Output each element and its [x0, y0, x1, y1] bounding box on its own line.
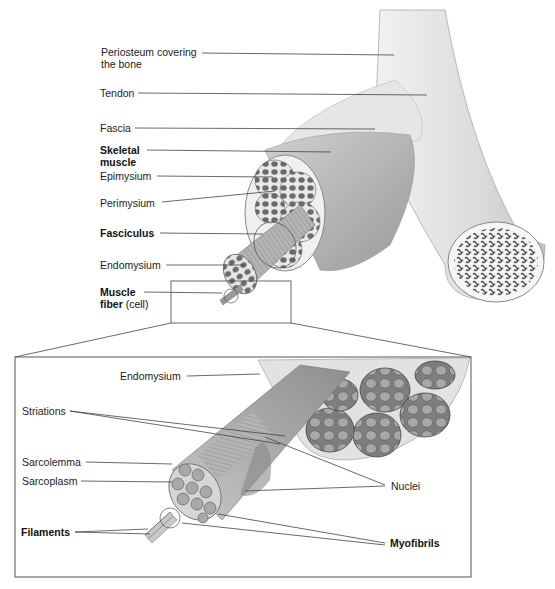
label-periosteum: Periosteum covering the bone	[101, 46, 197, 70]
label-skeletal-line1: Skeletal	[100, 144, 140, 156]
label-fasciculus: Fasciculus	[100, 227, 154, 239]
label-fascia: Fascia	[100, 122, 131, 134]
label-skeletal-muscle: Skeletal muscle	[100, 144, 140, 168]
label-endomysium-upper: Endomysium	[100, 259, 161, 271]
label-periosteum-line1: Periosteum covering	[101, 46, 197, 58]
muscle-anatomy-illustration	[0, 0, 555, 589]
label-cell-word: (cell)	[123, 298, 149, 310]
label-filaments: Filaments	[21, 526, 70, 538]
label-muscle-fiber-line2: fiber (cell)	[100, 298, 148, 310]
inset-illustration	[145, 358, 470, 543]
label-skeletal-line2: muscle	[100, 156, 140, 168]
label-perimysium: Perimysium	[100, 197, 155, 209]
label-nuclei: Nuclei	[391, 480, 420, 492]
label-endomysium-inset: Endomysium	[120, 370, 181, 382]
label-myofibrils: Myofibrils	[390, 537, 440, 549]
label-tendon: Tendon	[100, 87, 134, 99]
label-muscle-fiber: Muscle fiber (cell)	[100, 286, 148, 310]
label-fiber-word: fiber	[100, 298, 123, 310]
label-epimysium: Epimysium	[100, 170, 151, 182]
label-periosteum-line2: the bone	[101, 58, 197, 70]
label-striations: Striations	[22, 405, 66, 417]
label-muscle-fiber-line1: Muscle	[100, 286, 148, 298]
label-sarcolemma: Sarcolemma	[22, 456, 81, 468]
bone-and-muscle-illustration	[217, 10, 545, 305]
label-sarcoplasm: Sarcoplasm	[22, 475, 77, 487]
